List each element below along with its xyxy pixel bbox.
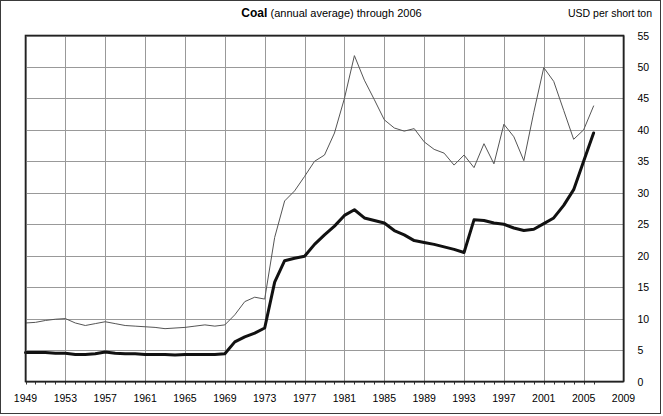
y-axis-tick-label: 25 [638,218,650,230]
x-axis-tick-label: 1989 [412,392,436,404]
y-axis-tick-label: 30 [638,187,650,199]
chart-plot: 1949195319571961196519691973197719811985… [1,1,662,415]
plot-border [26,36,624,382]
x-axis-tick-label: 1997 [492,392,516,404]
x-axis-tick-label: 1977 [293,392,317,404]
y-axis-tick-label: 50 [638,61,650,73]
y-axis-tick-label: 55 [638,30,650,42]
gridlines [26,36,625,385]
x-axis-tick-label: 1981 [333,392,357,404]
data-series-line [26,133,594,355]
x-axis-tick-label: 1957 [94,392,118,404]
y-axis-tick-label: 15 [638,281,650,293]
x-axis-tick-label: 1949 [14,392,38,404]
y-axis-tick-label: 20 [638,250,650,262]
chart-container: Coal (annual average) through 2006 USD p… [0,0,661,414]
y-axis-tick-label: 35 [638,155,650,167]
x-axis-tick-label: 1953 [54,392,78,404]
x-axis-tick-labels: 1949195319571961196519691973197719811985… [14,392,636,404]
x-axis-tick-label: 1965 [173,392,197,404]
x-axis-tick-label: 1985 [373,392,397,404]
x-axis-tick-label: 2005 [572,392,596,404]
y-axis-tick-label: 10 [638,313,650,325]
y-axis-tick-label: 0 [638,376,644,388]
x-axis-tick-label: 1969 [213,392,237,404]
y-axis-tick-label: 40 [638,124,650,136]
y-axis-tick-labels: 0510152025303540455055 [638,30,650,388]
x-axis-tick-label: 1973 [253,392,277,404]
x-axis-tick-label: 1993 [452,392,476,404]
x-axis-tick-label: 2001 [532,392,556,404]
x-axis-tick-label: 2009 [612,392,636,404]
y-axis-tick-label: 5 [638,344,644,356]
y-axis-tick-label: 45 [638,92,650,104]
x-axis-tick-label: 1961 [133,392,157,404]
data-series-layer [26,56,594,355]
